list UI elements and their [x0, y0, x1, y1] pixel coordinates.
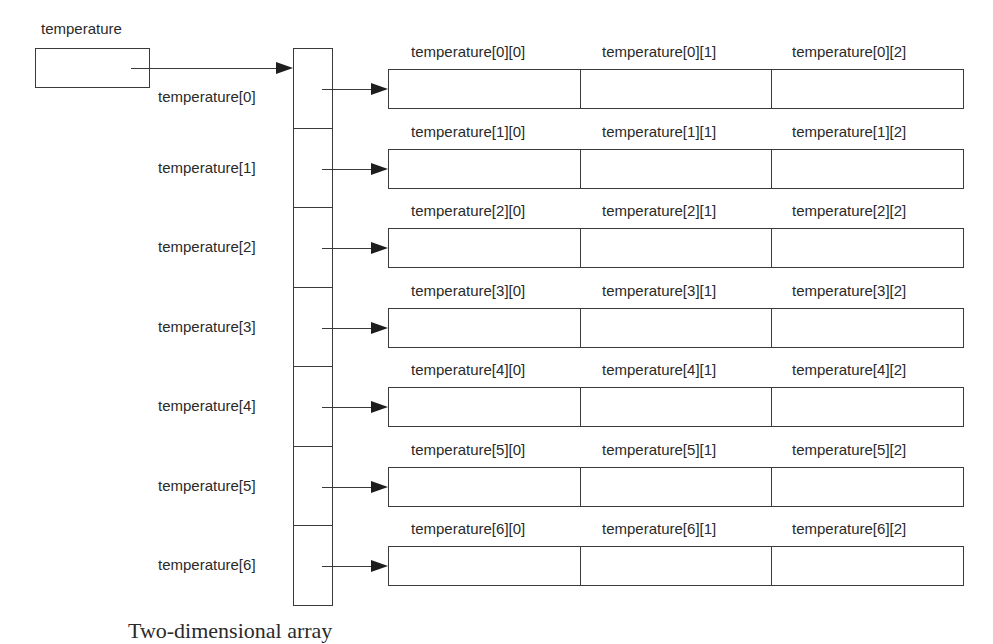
row-pointer-arrow-line: [322, 566, 374, 567]
cell-label: temperature[3][0]: [411, 282, 525, 299]
cell-label: temperature[2][0]: [411, 202, 525, 219]
row-pointer-divider: [293, 525, 333, 526]
row-pointer-label: temperature[6]: [158, 556, 256, 573]
row-pointer-arrow-line: [322, 169, 374, 170]
cell-label: temperature[3][1]: [602, 282, 716, 299]
cell-label: temperature[5][1]: [602, 441, 716, 458]
row-pointer-divider: [293, 287, 333, 288]
cell-divider: [771, 149, 772, 189]
cell-label: temperature[0][1]: [602, 43, 716, 60]
row-pointer-label: temperature[5]: [158, 477, 256, 494]
cell-label: temperature[1][2]: [792, 123, 906, 140]
cell-label: temperature[6][1]: [602, 520, 716, 537]
cell-label: temperature[3][2]: [792, 282, 906, 299]
row-pointer-divider: [293, 128, 333, 129]
cell-label: temperature[6][0]: [411, 520, 525, 537]
array-row-6: [388, 546, 964, 586]
row-pointer-label: temperature[3]: [158, 318, 256, 335]
row-pointer-arrow-line: [322, 248, 374, 249]
row-pointer-arrow-line: [322, 328, 374, 329]
cell-divider: [771, 467, 772, 507]
row-pointer-array: [293, 48, 333, 606]
row-pointer-arrow-line: [322, 89, 374, 90]
figure-caption-fragment: Two-dimensional array: [128, 618, 332, 644]
cell-label: temperature[0][2]: [792, 43, 906, 60]
arrowhead-icon: [371, 560, 388, 572]
cell-label: temperature[4][0]: [411, 361, 525, 378]
cell-label: temperature[2][2]: [792, 202, 906, 219]
cell-divider: [580, 228, 581, 268]
row-pointer-divider: [293, 446, 333, 447]
cell-divider: [580, 546, 581, 586]
cell-label: temperature[5][2]: [792, 441, 906, 458]
cell-divider: [580, 387, 581, 427]
row-pointer-label: temperature[2]: [158, 238, 256, 255]
arrowhead-icon: [371, 481, 388, 493]
arrowhead-icon: [371, 401, 388, 413]
row-pointer-divider: [293, 366, 333, 367]
row-pointer-label: temperature[0]: [158, 88, 256, 105]
row-pointer-label: temperature[1]: [158, 159, 256, 176]
arrowhead-icon: [371, 322, 388, 334]
array-row-5: [388, 467, 964, 507]
pointer-arrow-line: [131, 68, 279, 69]
arrowhead-icon: [371, 83, 388, 95]
row-pointer-label: temperature[4]: [158, 397, 256, 414]
array-row-3: [388, 308, 964, 348]
cell-label: temperature[0][0]: [411, 43, 525, 60]
cell-divider: [771, 546, 772, 586]
array-row-0: [388, 69, 964, 109]
cell-divider: [580, 149, 581, 189]
row-pointer-arrow-line: [322, 487, 374, 488]
cell-label: temperature[5][0]: [411, 441, 525, 458]
cell-label: temperature[1][1]: [602, 123, 716, 140]
cell-divider: [771, 228, 772, 268]
pointer-variable-label: temperature: [41, 20, 122, 37]
cell-divider: [580, 467, 581, 507]
cell-label: temperature[4][1]: [602, 361, 716, 378]
cell-divider: [580, 308, 581, 348]
array-row-4: [388, 387, 964, 427]
arrowhead-icon: [371, 163, 388, 175]
cell-label: temperature[6][2]: [792, 520, 906, 537]
cell-label: temperature[1][0]: [411, 123, 525, 140]
cell-divider: [580, 69, 581, 109]
cell-divider: [771, 69, 772, 109]
cell-divider: [771, 308, 772, 348]
row-pointer-divider: [293, 207, 333, 208]
pointer-arrowhead-icon: [276, 62, 293, 74]
cell-label: temperature[2][1]: [602, 202, 716, 219]
row-pointer-arrow-line: [322, 407, 374, 408]
cell-divider: [771, 387, 772, 427]
cell-label: temperature[4][2]: [792, 361, 906, 378]
array-row-1: [388, 149, 964, 189]
array-row-2: [388, 228, 964, 268]
arrowhead-icon: [371, 242, 388, 254]
